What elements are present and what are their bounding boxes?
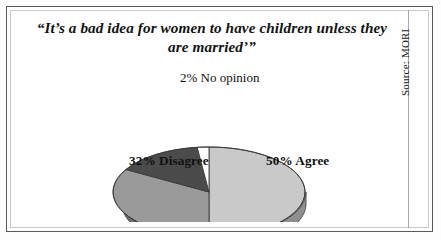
pie-label-no-opinion: 2% No opinion (180, 70, 259, 86)
pie-label-disagree: 32% Disagree (129, 153, 209, 169)
pie-label-agree: 50% Agree (266, 153, 329, 169)
pie-plot-area: 2% No opinion 50% Agree 32% Disagree 16%… (14, 62, 404, 222)
pie-label-neither: 16% Neither (132, 107, 205, 123)
chart-title: “It’s a bad idea for women to have child… (26, 18, 398, 56)
pie-chart-svg (14, 62, 404, 222)
source-caption: Source: MORI (399, 0, 417, 96)
chart-figure: “It’s a bad idea for women to have child… (0, 0, 441, 240)
